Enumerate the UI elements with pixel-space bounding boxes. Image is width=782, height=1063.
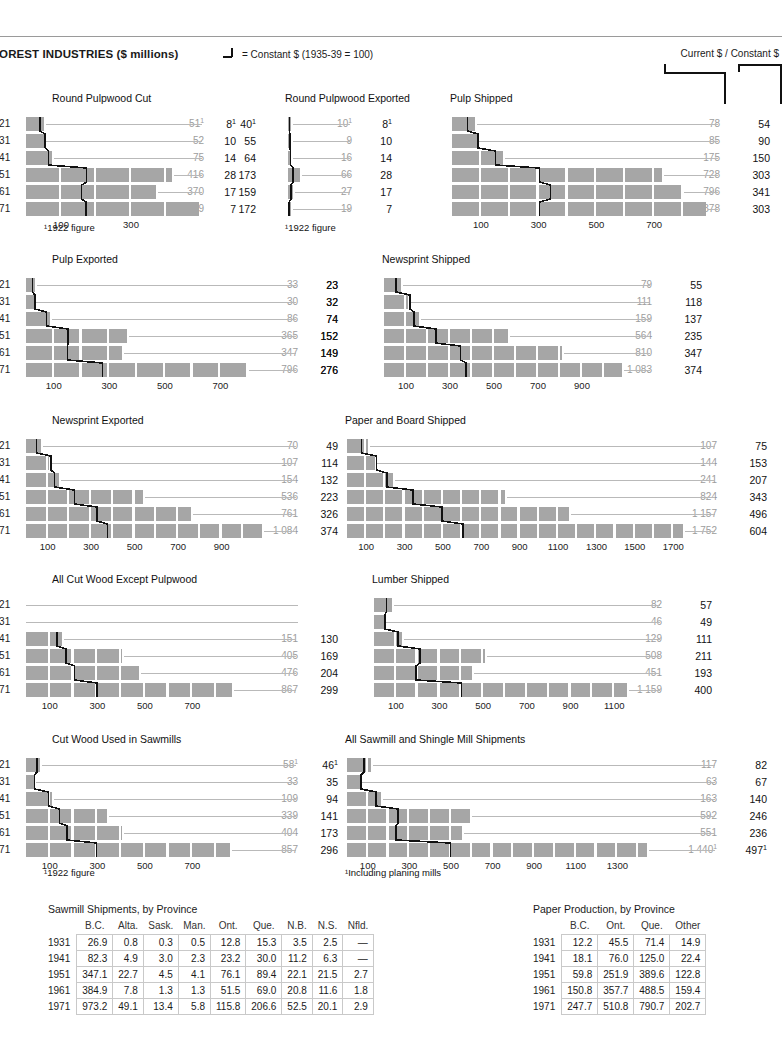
table-cell: 790.7 [634, 999, 670, 1015]
x-axis-tick-label: 100 [46, 380, 62, 391]
constant-dollar-value: 496 [723, 508, 767, 520]
plot-area [384, 277, 637, 379]
constant-dollar-value: 246 [723, 810, 767, 822]
constant-dollar-value-left: 149 [310, 347, 338, 359]
chart-footnote: ¹Including planing mills [345, 867, 441, 878]
constant-dollar-value: 75 [723, 440, 767, 452]
year-label-1941: 1941 [0, 633, 10, 644]
row-header-year: 1971 [48, 999, 77, 1015]
year-label-1971: 1971 [0, 844, 10, 855]
table-cell: 13.4 [143, 999, 178, 1015]
constant-dollar-value: 296 [294, 844, 338, 856]
constant-dollar-value: 211 [668, 650, 712, 662]
x-axis-tick-label: 500 [475, 700, 491, 711]
paper-production-table-block: Paper Production, by Province B.C.Ont.Qu… [533, 903, 706, 1015]
constant-dollar-value: 140 [723, 793, 767, 805]
chart-title: Newsprint Exported [52, 414, 144, 426]
year-label-1931: 1931 [0, 776, 10, 787]
legend-label: = Constant $ (1935-39 = 100) [242, 49, 373, 60]
x-axis-tick-label: 300 [101, 380, 117, 391]
x-axis-tick-label: 700 [185, 700, 201, 711]
row-header-year: 1941 [533, 951, 562, 967]
year-label-1951: 1951 [0, 330, 10, 341]
table-cell: 21.5 [312, 967, 342, 983]
table-cell: 1.8 [343, 983, 374, 999]
x-axis-tick-label: 1100 [566, 860, 586, 871]
table-cell: 59.8 [562, 967, 598, 983]
constant-dollar-step-line [26, 597, 246, 701]
x-axis-tick-label: 100 [42, 700, 58, 711]
x-axis-tick-label: 500 [157, 380, 173, 391]
table-cell: 76.1 [211, 967, 246, 983]
table-cell: 20.1 [312, 999, 342, 1015]
year-label-1951: 1951 [0, 810, 10, 821]
x-axis-tick-label: 700 [530, 380, 546, 391]
x-axis: 100300500700900 [26, 541, 276, 553]
table-cell: 389.6 [634, 967, 670, 983]
x-axis-tick-label: 100 [358, 541, 374, 552]
sawmill-shipments-table: B.C.Alta.Sask.Man.Ont.Que.N.B.N.S.Nfld. … [48, 918, 374, 1015]
constant-dollar-step-line [26, 438, 282, 542]
table-cell: 26.9 [77, 935, 113, 951]
constant-dollar-value-left: 23 [310, 279, 338, 291]
column-header-nb: N.B. [282, 918, 312, 935]
table-row: 193126.90.80.30.512.815.33.52.5— [48, 935, 373, 951]
constant-dollar-value: 90 [726, 135, 770, 147]
year-label-1961: 1961 [0, 347, 10, 358]
table-cell: 6.3 [312, 951, 342, 967]
chart-title: Pulp Exported [52, 253, 118, 265]
constant-dollar-value-left: 152 [310, 330, 338, 342]
table-corner-cell [48, 918, 77, 935]
table-cell: 384.9 [77, 983, 113, 999]
year-label-1941: 1941 [0, 152, 10, 163]
table-row: 194182.34.93.02.323.230.011.26.3— [48, 951, 373, 967]
year-label-1971: 1971 [0, 684, 10, 695]
row-header-year: 1961 [48, 983, 77, 999]
x-axis: 100300500700 [26, 380, 276, 392]
constant-dollar-value: 173 [294, 827, 338, 839]
year-label-1971: 1971 [0, 203, 10, 214]
constant-dollar-step-icon [222, 48, 237, 61]
constant-dollar-value: 118 [658, 296, 702, 308]
table-cell: 0.5 [178, 935, 210, 951]
table-cell: — [343, 951, 374, 967]
table-cell: 2.7 [343, 967, 374, 983]
constant-dollar-value: 111 [668, 633, 712, 645]
x-axis-tick-label: 300 [531, 219, 547, 230]
constant-dollar-value: 153 [723, 457, 767, 469]
table-cell: 82.3 [77, 951, 113, 967]
table-cell: 76.0 [598, 951, 634, 967]
year-label-1931: 1931 [0, 616, 10, 627]
plot-area [288, 116, 388, 218]
column-header-ont: Ont. [598, 918, 634, 935]
table-cell: 51.5 [211, 983, 246, 999]
x-axis-tick-label: 100 [40, 541, 56, 552]
x-axis-tick-label: 300 [432, 700, 448, 711]
page-title: FOREST INDUSTRIES ($ millions) [0, 48, 178, 60]
constant-dollar-value: 374 [658, 364, 702, 376]
plot-area [452, 116, 712, 218]
table-cell: 1.3 [178, 983, 210, 999]
table-cell: 247.7 [562, 999, 598, 1015]
x-axis-tick-label: 1500 [624, 541, 645, 552]
table-cell: 30.0 [246, 951, 282, 967]
year-label-1961: 1961 [0, 667, 10, 678]
constant-dollar-value-left: 7 [208, 203, 236, 215]
x-axis: 1003005007009001100130015001700 [347, 541, 702, 553]
constant-dollar-value-left: 276 [310, 364, 338, 376]
constant-dollar-value: 207 [723, 474, 767, 486]
table-cell: 20.8 [282, 983, 312, 999]
x-axis-tick-label: 900 [512, 541, 528, 552]
constant-dollar-value: 57 [668, 599, 712, 611]
chart-title: Newsprint Shipped [382, 253, 470, 265]
table-cell: 15.3 [246, 935, 282, 951]
x-axis: 100300500700900 [384, 380, 637, 392]
plot-area [26, 116, 222, 218]
x-axis-tick-label: 500 [486, 380, 502, 391]
x-axis-tick-label: 100 [388, 700, 404, 711]
row-header-year: 1971 [533, 999, 562, 1015]
table-cell: 4.9 [113, 951, 143, 967]
year-label-1971: 1971 [0, 364, 10, 375]
x-axis-tick-label: 1100 [604, 700, 624, 711]
sawmill-shipments-title: Sawmill Shipments, by Province [48, 903, 374, 915]
